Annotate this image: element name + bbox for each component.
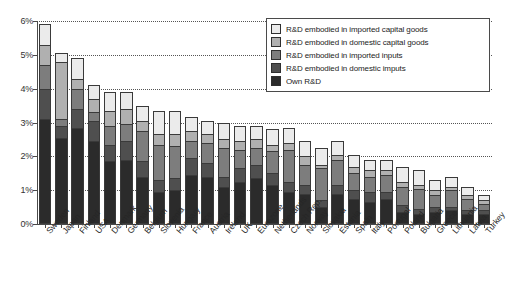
legend-item[interactable]: R&D embodied in domestic capital goods: [271, 36, 484, 48]
bar-segment: [39, 65, 51, 89]
chart-legend: R&D embodied in imported capital goods R…: [266, 18, 490, 92]
bar-column[interactable]: [183, 21, 199, 224]
x-axis-label-cell: Portugal: [378, 228, 394, 285]
bar-column[interactable]: [167, 21, 183, 224]
bar-column[interactable]: [70, 21, 86, 224]
bar-segment: [55, 62, 67, 120]
x-axis-label-cell: Austria: [200, 228, 216, 285]
bar-segment: [153, 134, 165, 144]
bar-segment: [153, 145, 165, 181]
bar-segment: [396, 187, 408, 206]
x-axis-label-cell: Denmark: [102, 228, 118, 285]
bar-segment: [331, 160, 343, 185]
x-axis-label-cell: Estonia: [330, 228, 346, 285]
x-axis-label-cell: UK: [232, 228, 248, 285]
legend-swatch-domestic-imputs: [271, 63, 281, 73]
bar-segment: [364, 177, 376, 192]
bar-column[interactable]: [232, 21, 248, 224]
stacked-bar[interactable]: [88, 85, 100, 224]
y-axis-tick-label: 4%: [3, 84, 33, 94]
bar-segment: [283, 128, 295, 143]
bar-segment: [169, 111, 181, 135]
stacked-bar[interactable]: [201, 121, 213, 224]
bar-segment: [348, 167, 360, 174]
bar-segment: [250, 178, 262, 224]
bar-segment: [71, 89, 83, 109]
bar-column[interactable]: [86, 21, 102, 224]
legend-swatch-imported-inputs: [271, 50, 281, 60]
bar-segment: [39, 89, 51, 119]
bar-segment: [39, 45, 51, 65]
x-axis-label-cell: Slovakia: [313, 228, 329, 285]
bar-segment: [250, 148, 262, 165]
bar-column[interactable]: [37, 21, 53, 224]
bar-segment: [348, 190, 360, 198]
x-axis-label-cell: USA: [86, 228, 102, 285]
stacked-bar[interactable]: [250, 126, 262, 224]
bar-segment: [299, 185, 311, 193]
bar-column[interactable]: [216, 21, 232, 224]
bar-segment: [201, 143, 213, 163]
x-axis-label-cell: Norway: [297, 228, 313, 285]
bar-segment: [266, 145, 278, 152]
bar-segment: [120, 92, 132, 109]
x-axis-label-cell: Italy: [362, 228, 378, 285]
stacked-bar[interactable]: [380, 160, 392, 224]
bar-segment: [39, 119, 51, 224]
legend-item[interactable]: R&D embodied in imported capital goods: [271, 23, 484, 35]
bar-segment: [120, 141, 132, 160]
x-axis-label-cell: Germany: [118, 228, 134, 285]
bar-segment: [169, 146, 181, 178]
legend-swatch-domestic-capital-goods: [271, 37, 281, 47]
bar-segment: [185, 141, 197, 158]
stacked-bar[interactable]: [55, 53, 67, 224]
legend-item[interactable]: R&D embodied in domestic imputs: [271, 62, 484, 74]
bar-segment: [478, 204, 490, 211]
bar-segment: [250, 126, 262, 140]
stacked-bar[interactable]: [71, 58, 83, 224]
bar-segment: [104, 126, 116, 145]
bar-segment: [380, 175, 392, 192]
legend-item[interactable]: R&D embodied in imported inputs: [271, 49, 484, 61]
bar-column[interactable]: [102, 21, 118, 224]
bar-segment: [104, 161, 116, 224]
bar-column[interactable]: [248, 21, 264, 224]
stacked-bar[interactable]: [234, 126, 246, 224]
bar-segment: [283, 182, 295, 192]
legend-item[interactable]: Own R&D: [271, 75, 484, 87]
bar-segment: [315, 168, 327, 200]
y-axis-tick-label: 5%: [3, 50, 33, 60]
bar-segment: [169, 178, 181, 190]
bar-segment: [88, 112, 100, 120]
stacked-bar[interactable]: [39, 24, 51, 224]
x-axis-label-cell: Greece: [427, 228, 443, 285]
bar-segment: [104, 145, 116, 162]
stacked-bar[interactable]: [104, 92, 116, 224]
bar-segment: [266, 151, 278, 173]
bar-segment: [120, 109, 132, 124]
x-axis-category-labels: SwedenJapanFinlandUSADenmarkGermanyBelgi…: [37, 228, 492, 285]
bar-segment: [185, 117, 197, 131]
bar-column[interactable]: [53, 21, 69, 224]
bar-segment: [88, 121, 100, 141]
x-axis-label-cell: Hungary: [167, 228, 183, 285]
legend-label: Own R&D: [286, 77, 321, 86]
bar-segment: [201, 121, 213, 135]
bar-segment: [250, 165, 262, 179]
bar-segment: [201, 134, 213, 142]
bar-segment: [104, 111, 116, 126]
bar-column[interactable]: [200, 21, 216, 224]
bar-column[interactable]: [151, 21, 167, 224]
bar-column[interactable]: [135, 21, 151, 224]
x-axis-label-cell: Eurozone: [248, 228, 264, 285]
bar-segment: [364, 192, 376, 202]
bar-segment: [55, 119, 67, 126]
x-axis-label-cell: Czech Rep.: [281, 228, 297, 285]
x-axis-label-cell: France: [183, 228, 199, 285]
bar-segment: [218, 123, 230, 140]
bar-segment: [380, 160, 392, 170]
bar-segment: [266, 173, 278, 185]
bar-segment: [234, 168, 246, 182]
bar-column[interactable]: [118, 21, 134, 224]
